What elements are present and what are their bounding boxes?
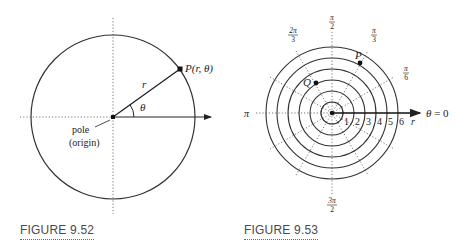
ring-number-5: 5 [388, 116, 393, 127]
angle-3pi-over-2-label: 3π 2 [327, 196, 337, 214]
point-q [314, 81, 319, 86]
figure-9-53-caption: FIGURE 9.53 [244, 223, 318, 240]
svg-text:2: 2 [330, 205, 334, 214]
svg-text:3π: 3π [327, 196, 336, 205]
polar-axis-label: θ = 0 [426, 107, 449, 119]
ring-number-6: 6 [399, 116, 404, 127]
svg-text:2π: 2π [289, 26, 297, 35]
point-p [358, 61, 363, 66]
point-p-label: P [354, 49, 362, 61]
angle-pi-over-3-label: π 3 [371, 26, 377, 44]
angle-pi-over-6-label: π 6 [403, 64, 409, 82]
radius-line [113, 69, 180, 117]
figure-9-52-caption: FIGURE 9.52 [20, 223, 94, 240]
svg-text:π: π [372, 26, 376, 35]
svg-text:6: 6 [404, 73, 408, 82]
radius-label: r [142, 78, 147, 90]
svg-text:π: π [330, 13, 334, 22]
point-p-label: P(r, θ) [184, 62, 213, 75]
angle-2pi-over-3-label: 2π 3 [288, 26, 298, 44]
svg-text:2: 2 [330, 22, 334, 31]
ring-number-2: 2 [355, 116, 360, 127]
angle-pi-over-2-label: π 2 [329, 13, 335, 31]
point-p [178, 67, 183, 72]
figure-9-52-diagram: P(r, θ) r θ pole (origin) [20, 18, 213, 214]
radius-axis-label: r [411, 116, 415, 127]
ring-number-1: 1 [344, 116, 349, 127]
pole-point [330, 111, 334, 115]
pole-point [111, 115, 115, 119]
svg-text:π: π [404, 64, 408, 73]
pole-label: pole [72, 124, 90, 135]
ring-number-4: 4 [377, 116, 382, 127]
figures-canvas: P(r, θ) r θ pole (origin) [0, 0, 469, 249]
pole-leader-line [95, 120, 110, 127]
figure-9-53-diagram: P Q 1 2 3 4 5 6 r θ = 0 π π 2 2π 3 π 3 [244, 13, 449, 214]
origin-label: (origin) [69, 137, 100, 149]
angle-arc [130, 105, 134, 117]
svg-text:3: 3 [291, 35, 295, 44]
angle-pi-label: π [244, 108, 250, 119]
svg-text:3: 3 [372, 35, 376, 44]
point-q-label: Q [303, 76, 311, 88]
ring-number-3: 3 [366, 116, 371, 127]
angle-label: θ [140, 101, 146, 113]
